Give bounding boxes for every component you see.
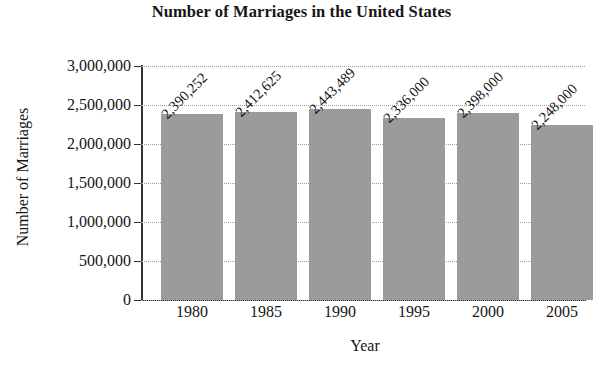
x-axis-tick-label: 1995 xyxy=(383,303,445,321)
x-axis-title: Year xyxy=(141,337,589,355)
x-axis-tick-label: 2005 xyxy=(531,303,593,321)
x-axis-tick-label: 1985 xyxy=(235,303,297,321)
x-axis-tick-labels: 198019851990199520002005 xyxy=(141,0,585,378)
bar-chart: Number of Marriages in the United States… xyxy=(0,0,603,378)
x-axis-tick-label: 1980 xyxy=(161,303,223,321)
x-axis-tick-label: 2000 xyxy=(457,303,519,321)
x-axis-tick-label: 1990 xyxy=(309,303,371,321)
